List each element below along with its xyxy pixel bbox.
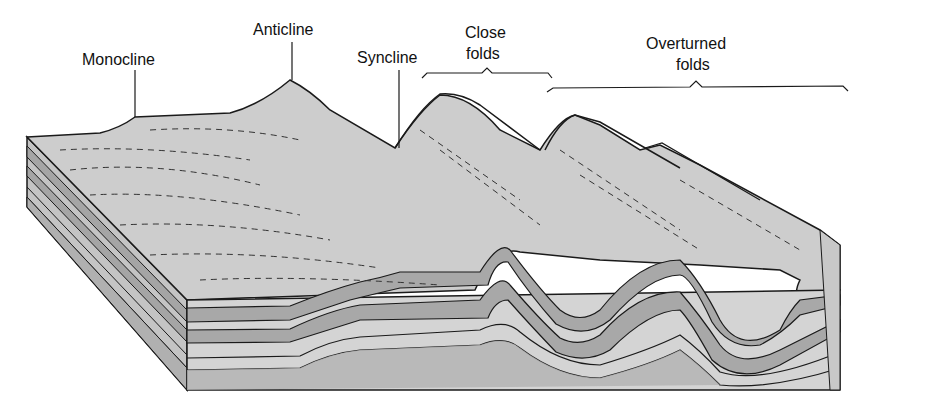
label-overturned-folds-line2: folds [676,55,710,74]
label-overturned-folds-line1: Overturned [646,34,726,53]
fold-types-diagram: Monocline Anticline Syncline Close folds… [0,0,927,403]
label-syncline: Syncline [357,48,417,67]
label-anticline: Anticline [253,20,313,39]
label-close-folds-line1: Close [465,23,506,42]
label-close-folds-line2: folds [466,44,500,63]
label-monocline: Monocline [82,50,155,69]
